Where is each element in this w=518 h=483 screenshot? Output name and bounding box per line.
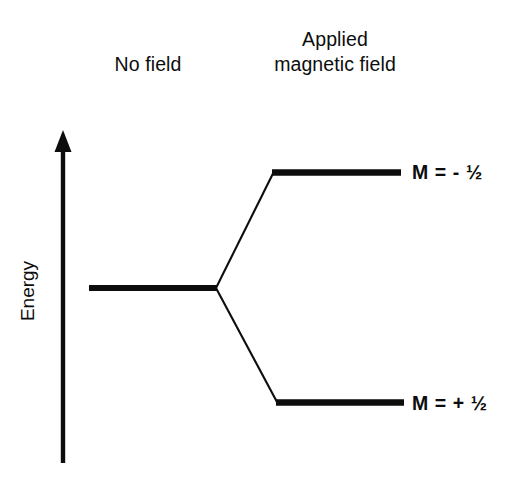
energy-level-diagram: No field Appliedmagnetic field M = - ½ M… xyxy=(0,0,518,483)
axis-arrowhead xyxy=(55,130,72,152)
header-line-2: magnetic field xyxy=(274,53,396,75)
upper-branch-line xyxy=(216,173,274,289)
header-line-1: Applied xyxy=(302,28,368,50)
state-label-m-minus-half: M = - ½ xyxy=(412,161,483,183)
state-label-m-plus-half: M = + ½ xyxy=(412,392,488,414)
energy-axis-arrow-icon xyxy=(55,130,72,463)
lower-branch-line xyxy=(216,288,277,402)
axis-label-energy: Energy xyxy=(18,237,38,345)
column-header-applied-magnetic-field: Appliedmagnetic field xyxy=(244,27,426,77)
